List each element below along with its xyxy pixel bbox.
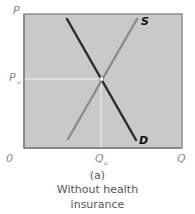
quantity-axis-label: Q (177, 152, 186, 165)
quantity-equilibrium-subscript: u (104, 159, 108, 166)
price-axis-label: P (13, 4, 20, 17)
demand-label: D (139, 134, 148, 147)
caption-line-2: insurance (0, 198, 195, 212)
equilibrium-point (99, 77, 103, 81)
caption-line-1: Without health (0, 183, 195, 197)
price-equilibrium-label: P (9, 71, 16, 84)
quantity-equilibrium-label: Q (95, 152, 104, 165)
supply-label: S (141, 15, 149, 28)
origin-label: 0 (6, 152, 13, 165)
price-equilibrium-subscript: u (17, 78, 21, 85)
panel-label: (a) (0, 169, 195, 183)
